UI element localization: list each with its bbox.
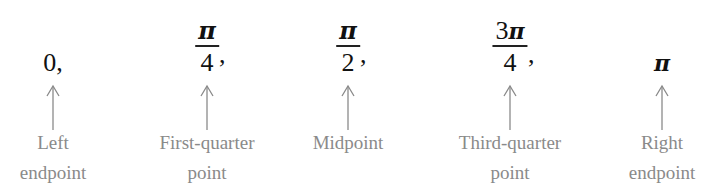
denominator: 4 (195, 49, 219, 77)
fraction-bar (195, 45, 219, 47)
denominator: 4 (492, 49, 527, 77)
point-left-endpoint: 0, Left endpoint (0, 0, 133, 189)
expression: 3π 4 , (430, 18, 590, 80)
numerator: π (195, 18, 219, 44)
value-zero: 0 (43, 48, 56, 77)
comma: , (219, 40, 226, 70)
fraction: π 4 (195, 18, 219, 77)
fraction-bar (336, 45, 360, 47)
value-pi: π (654, 50, 670, 76)
expression: π 4 , (127, 18, 287, 80)
point-right-endpoint: π Right endpoint (582, 0, 715, 189)
numerator: π (336, 18, 360, 44)
numerator: 3π (492, 18, 527, 44)
expression: π (582, 18, 715, 80)
fraction-bar (492, 45, 527, 47)
comma: , (56, 48, 63, 77)
up-arrow-icon (341, 84, 355, 130)
up-arrow-icon (655, 84, 669, 130)
point-midpoint: π 2 , Midpoint (268, 0, 428, 189)
fraction: 3π 4 (492, 18, 527, 77)
denominator: 2 (336, 49, 360, 77)
point-label: Midpoint (268, 128, 428, 158)
expression: π 2 , (268, 18, 428, 80)
point-label: Right endpoint (582, 128, 715, 188)
up-arrow-icon (46, 84, 60, 130)
comma: , (528, 40, 535, 70)
up-arrow-icon (503, 84, 517, 130)
comma: , (360, 40, 367, 70)
expression: 0, (0, 18, 133, 80)
up-arrow-icon (200, 84, 214, 130)
point-label: First-quarter point (127, 128, 287, 188)
fraction: π 2 (336, 18, 360, 77)
point-label: Third-quarter point (430, 128, 590, 188)
point-third-quarter: 3π 4 , Third-quarter point (430, 0, 590, 189)
point-label: Left endpoint (0, 128, 133, 188)
point-first-quarter: π 4 , First-quarter point (127, 0, 287, 189)
